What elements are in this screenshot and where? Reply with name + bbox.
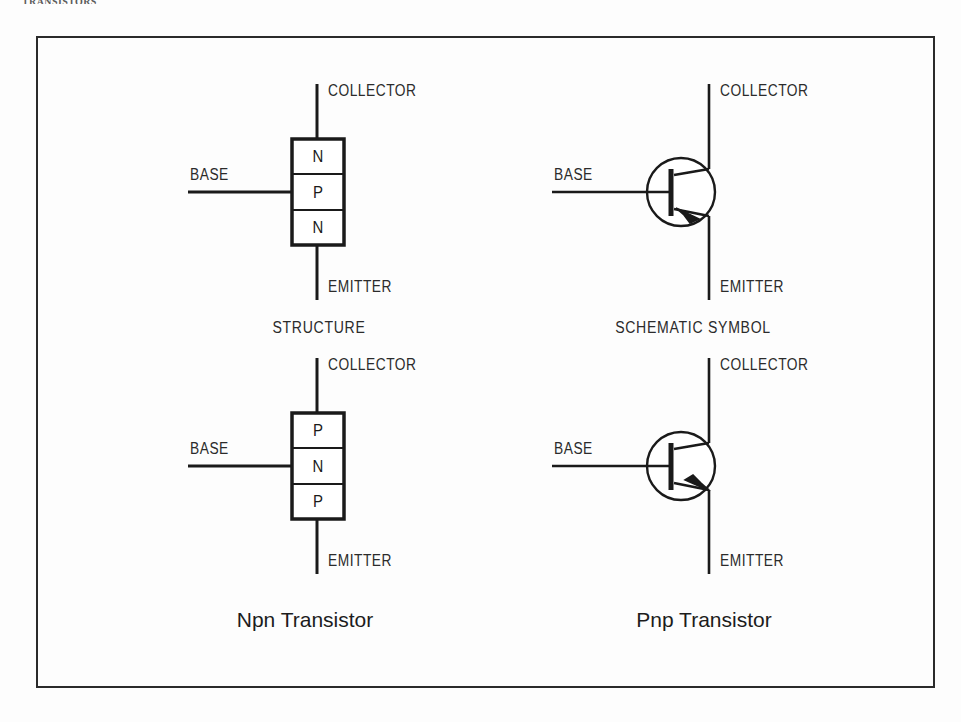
pnp-symbol-emitter-label: EMITTER <box>720 552 784 570</box>
pnp-layer-base: N <box>313 457 324 477</box>
caption-npn-transistor: Npn Transistor <box>237 608 374 632</box>
caption-pnp-transistor: Pnp Transistor <box>636 608 771 632</box>
pnp-structure-collector-label: COLLECTOR <box>328 356 417 374</box>
npn-layer-collector: N <box>313 147 324 167</box>
npn-layer-emitter: N <box>313 218 324 238</box>
npn-symbol-drawing <box>552 84 715 300</box>
column-label-structure: STRUCTURE <box>272 319 365 337</box>
pnp-symbol-collector-label: COLLECTOR <box>720 356 809 374</box>
scanned-page: TRANSISTORS <box>0 0 961 722</box>
npn-symbol-collector-label: COLLECTOR <box>720 82 809 100</box>
pnp-symbol-base-label: BASE <box>554 440 593 458</box>
npn-structure-base-label: BASE <box>190 166 229 184</box>
pnp-structure-emitter-label: EMITTER <box>328 552 392 570</box>
column-label-schematic-symbol: SCHEMATIC SYMBOL <box>615 319 771 337</box>
pnp-symbol-drawing <box>552 358 715 574</box>
npn-symbol-base-label: BASE <box>554 166 593 184</box>
figure-frame: COLLECTOR BASE EMITTER N P N COLLECTOR B… <box>36 36 935 688</box>
page-running-header: TRANSISTORS <box>22 0 97 4</box>
pnp-layer-collector: P <box>313 421 323 441</box>
pnp-structure-base-label: BASE <box>190 440 229 458</box>
npn-symbol-emitter-label: EMITTER <box>720 278 784 296</box>
pnp-layer-emitter: P <box>313 492 323 512</box>
npn-structure-emitter-label: EMITTER <box>328 278 392 296</box>
npn-structure-collector-label: COLLECTOR <box>328 82 417 100</box>
npn-layer-base: P <box>313 183 323 203</box>
